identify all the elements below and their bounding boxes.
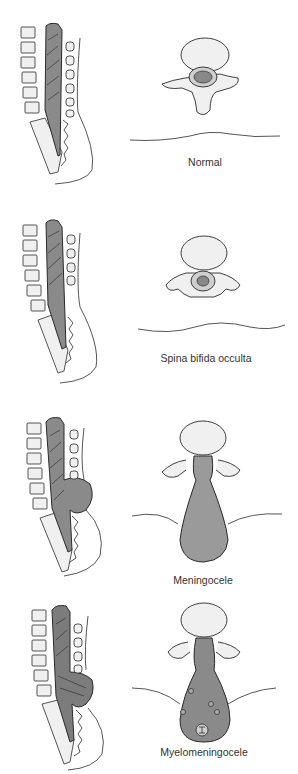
sagittal-spine-meningocele	[0, 380, 298, 580]
panel-spina-bifida-occulta: Spina bifida occulta	[0, 185, 298, 385]
panel-myelomeningocele: Myelomeningocele	[0, 580, 298, 774]
axial-vertebra-meningocele	[162, 421, 240, 562]
panel-normal: Normal	[0, 0, 298, 190]
axial-vertebra-myelomeningocele	[168, 603, 240, 742]
axial-vertebra-occulta	[166, 236, 240, 297]
panel-meningocele	[0, 380, 298, 580]
caption-myelomeningocele: Myelomeningocele	[124, 746, 284, 758]
caption-normal: Normal	[125, 156, 285, 168]
sagittal-spine-myelomeningocele	[0, 580, 298, 774]
caption-spina-bifida-occulta: Spina bifida occulta	[126, 352, 286, 364]
axial-vertebra-normal	[162, 38, 238, 115]
